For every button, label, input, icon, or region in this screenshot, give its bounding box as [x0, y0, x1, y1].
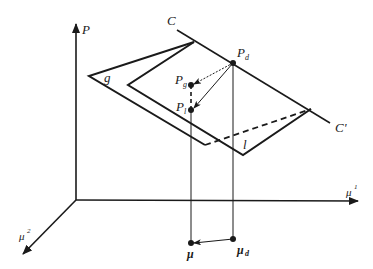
p-axis-label: P	[81, 22, 90, 37]
mu1-axis	[76, 200, 358, 201]
svg-text:d: d	[245, 53, 250, 62]
arrow-pd-to-pg	[194, 63, 233, 84]
svg-text:P: P	[175, 99, 184, 114]
label-pd: P d	[236, 45, 250, 62]
label-pl: P l	[175, 99, 187, 116]
plane-l	[128, 42, 311, 155]
point-mu	[188, 240, 194, 246]
label-mu: μ	[186, 247, 194, 261]
svg-text:P: P	[174, 72, 183, 87]
svg-text:1: 1	[354, 183, 358, 191]
point-pd	[230, 60, 236, 66]
parameter-space-diagram: P μ 1 μ 2 C C' g l P d P g P	[0, 0, 373, 269]
label-pg: P g	[174, 72, 187, 89]
plane-l-label: l	[243, 137, 247, 152]
line-c	[177, 30, 330, 123]
plane-g-label: g	[104, 70, 111, 85]
mu2-axis-label: μ 2	[18, 227, 31, 242]
point-mud	[230, 236, 236, 242]
line-c-end-label: C'	[335, 120, 347, 135]
label-mud: μ d	[236, 243, 250, 258]
svg-text:μ: μ	[236, 243, 244, 257]
svg-text:P: P	[236, 45, 245, 60]
arrow-mud-to-mu	[194, 239, 233, 243]
line-c-start-label: C	[167, 13, 176, 28]
svg-text:2: 2	[27, 227, 31, 235]
svg-text:μ: μ	[18, 230, 25, 242]
point-pl	[188, 107, 194, 113]
mu2-axis	[23, 200, 76, 254]
point-pg	[188, 82, 194, 88]
svg-text:g: g	[183, 80, 187, 89]
mu1-axis-label: μ 1	[345, 183, 358, 198]
svg-text:d: d	[245, 249, 250, 258]
arrow-pd-to-pl	[194, 63, 233, 108]
svg-text:l: l	[184, 107, 187, 116]
svg-text:μ: μ	[345, 186, 352, 198]
